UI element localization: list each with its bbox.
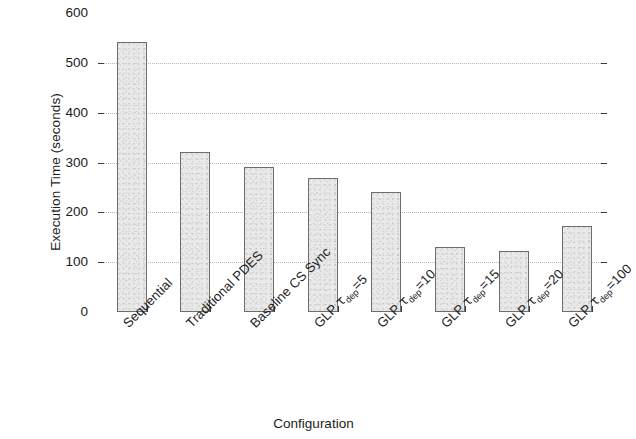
plot-area bbox=[98, 13, 607, 312]
bar bbox=[371, 192, 401, 312]
bar bbox=[499, 251, 529, 312]
bar bbox=[117, 42, 147, 312]
gridline bbox=[98, 212, 607, 213]
bar bbox=[244, 167, 274, 312]
y-tick-mark bbox=[98, 63, 104, 64]
bar bbox=[435, 247, 465, 312]
x-tick-mark bbox=[274, 306, 275, 312]
bar bbox=[180, 152, 210, 312]
gridline bbox=[98, 113, 607, 114]
y-tick-mark bbox=[98, 212, 104, 213]
y-tick-label: 400 bbox=[42, 106, 88, 119]
y-tick-mark bbox=[98, 113, 104, 114]
x-tick-mark bbox=[147, 306, 148, 312]
x-tick-mark bbox=[210, 306, 211, 312]
y-tick-label: 100 bbox=[42, 255, 88, 268]
y-tick-mark bbox=[601, 262, 607, 263]
x-tick-mark bbox=[465, 306, 466, 312]
y-tick-label: 500 bbox=[42, 56, 88, 69]
gridline bbox=[98, 262, 607, 263]
gridline bbox=[98, 163, 607, 164]
x-tick-mark bbox=[338, 306, 339, 312]
y-tick-label: 600 bbox=[42, 6, 88, 19]
bar bbox=[562, 226, 592, 312]
y-tick-mark bbox=[601, 212, 607, 213]
x-axis-title: Configuration bbox=[0, 416, 627, 431]
bar bbox=[308, 178, 338, 312]
gridline bbox=[98, 63, 607, 64]
y-tick-label: 200 bbox=[42, 205, 88, 218]
y-tick-mark bbox=[98, 262, 104, 263]
y-tick-mark bbox=[98, 163, 104, 164]
x-tick-mark bbox=[592, 306, 593, 312]
y-axis-tick-labels: 6005004003002001000 bbox=[42, 0, 88, 330]
x-tick-mark bbox=[401, 306, 402, 312]
y-tick-label: 0 bbox=[42, 305, 88, 318]
x-tick-mark bbox=[529, 306, 530, 312]
y-tick-mark bbox=[601, 63, 607, 64]
x-label-value: =100 bbox=[603, 261, 635, 293]
y-tick-mark bbox=[601, 163, 607, 164]
y-tick-mark bbox=[601, 113, 607, 114]
y-tick-label: 300 bbox=[42, 156, 88, 169]
